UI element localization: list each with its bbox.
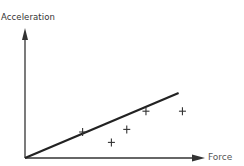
x-axis-arrow-icon xyxy=(192,155,205,162)
x-axis xyxy=(25,155,205,162)
data-point-plus-icon xyxy=(179,107,186,115)
chart-canvas xyxy=(0,0,244,166)
data-point-plus-icon xyxy=(108,138,115,146)
y-axis xyxy=(22,28,28,158)
y-axis-arrow-icon xyxy=(22,28,28,40)
best-fit-line xyxy=(25,93,179,158)
data-point-plus-icon xyxy=(123,125,130,133)
